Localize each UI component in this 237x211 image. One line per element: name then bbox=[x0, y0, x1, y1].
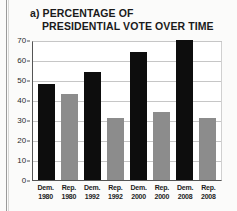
y-axis-tick-mark bbox=[27, 161, 30, 162]
chart-title-text-1: PERCENTAGE OF bbox=[43, 7, 134, 19]
y-axis-tick-mark bbox=[27, 181, 30, 182]
bar-dem-2008[interactable] bbox=[176, 40, 193, 180]
x-axis-label: Dem.2000 bbox=[130, 183, 147, 207]
x-axis-label: Rep.2008 bbox=[200, 183, 217, 207]
x-axis-label-year: 1992 bbox=[107, 192, 124, 201]
y-axis-tick-mark bbox=[27, 121, 30, 122]
x-axis-label: Dem.1992 bbox=[84, 183, 101, 207]
y-axis-tick-mark bbox=[27, 61, 30, 62]
bar-rep-1992[interactable] bbox=[107, 118, 124, 180]
y-axis-tick-label: 60 bbox=[17, 57, 26, 65]
x-axis-label-year: 1992 bbox=[84, 192, 101, 201]
plot-area bbox=[32, 41, 222, 181]
y-axis-tick-mark bbox=[27, 81, 30, 82]
bar-rep-1980[interactable] bbox=[61, 94, 78, 180]
bar-dem-1980[interactable] bbox=[38, 84, 55, 180]
x-axis-label-party: Dem. bbox=[37, 183, 54, 192]
y-axis-tick-label: 50 bbox=[17, 77, 26, 85]
x-axis-label: Rep.1992 bbox=[107, 183, 124, 207]
x-axis-label-party: Dem. bbox=[84, 183, 101, 192]
x-axis-label-party: Dem. bbox=[177, 183, 194, 192]
y-axis-tick-label: 40 bbox=[17, 97, 26, 105]
y-axis-tick-mark bbox=[27, 101, 30, 102]
y-axis-tick-label: 0 bbox=[22, 177, 26, 185]
y-axis-tick-label: 30 bbox=[17, 117, 26, 125]
bar-series bbox=[33, 42, 221, 180]
x-axis-label-year: 2008 bbox=[200, 192, 217, 201]
chart-title: a) PERCENTAGE OF PRESIDENTIAL VOTE OVER … bbox=[30, 7, 230, 32]
y-axis-tick-mark bbox=[27, 41, 30, 42]
bar-dem-1992[interactable] bbox=[84, 72, 101, 180]
x-axis-label-party: Rep. bbox=[107, 183, 124, 192]
chart-title-line-1: a) PERCENTAGE OF bbox=[30, 7, 230, 20]
figure-label: a) bbox=[30, 7, 40, 19]
y-axis-tick-label: 10 bbox=[17, 157, 26, 165]
x-axis-label-party: Rep. bbox=[60, 183, 77, 192]
y-axis-tick-mark bbox=[27, 141, 30, 142]
bar-dem-2000[interactable] bbox=[130, 52, 147, 180]
x-axis-label-year: 2008 bbox=[177, 192, 194, 201]
x-axis-label: Rep.2000 bbox=[153, 183, 170, 207]
y-axis: 010203040506070 bbox=[0, 41, 30, 181]
x-axis-label-year: 2000 bbox=[153, 192, 170, 201]
x-axis-label: Dem.1980 bbox=[37, 183, 54, 207]
x-axis-label-year: 2000 bbox=[130, 192, 147, 201]
x-axis: Dem.1980Rep.1980Dem.1992Rep.1992Dem.2000… bbox=[32, 183, 222, 207]
x-axis-label-party: Rep. bbox=[200, 183, 217, 192]
bar-rep-2000[interactable] bbox=[153, 112, 170, 180]
x-axis-label: Rep.1980 bbox=[60, 183, 77, 207]
chart-title-line-2: PRESIDENTIAL VOTE OVER TIME bbox=[30, 20, 230, 33]
x-axis-label-party: Rep. bbox=[153, 183, 170, 192]
x-axis-label-party: Dem. bbox=[130, 183, 147, 192]
x-axis-label-year: 1980 bbox=[37, 192, 54, 201]
x-axis-label: Dem.2008 bbox=[177, 183, 194, 207]
y-axis-tick-label: 70 bbox=[17, 37, 26, 45]
bar-chart-figure: a) PERCENTAGE OF PRESIDENTIAL VOTE OVER … bbox=[0, 0, 237, 211]
bar-rep-2008[interactable] bbox=[199, 118, 216, 180]
y-axis-tick-label: 20 bbox=[17, 137, 26, 145]
x-axis-label-year: 1980 bbox=[60, 192, 77, 201]
